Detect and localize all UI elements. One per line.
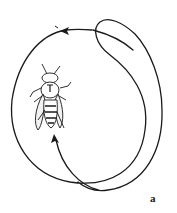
bottom-arrowhead-icon (51, 134, 59, 143)
bee-icon (30, 64, 71, 130)
outer-loop-path (12, 20, 163, 191)
loop-inner-stroke (93, 30, 133, 50)
panel-label: a (150, 192, 156, 204)
round-dance-diagram (0, 0, 177, 213)
top-return-path (66, 29, 92, 30)
top-arrowhead-icon (60, 27, 69, 35)
arrow-tick (55, 26, 58, 28)
